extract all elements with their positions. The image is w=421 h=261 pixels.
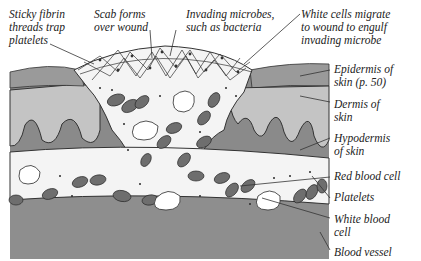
label-red-blood-cell: Red blood cell bbox=[334, 170, 400, 183]
label-white-cells-migrate: White cells migrate to wound to engulf i… bbox=[301, 8, 390, 47]
label-white-blood-cell: White blood cell bbox=[334, 213, 390, 239]
label-epidermis: Epidermis of skin (p. 50) bbox=[334, 63, 393, 89]
label-scab: Scab forms over wound bbox=[94, 8, 148, 34]
label-fibrin: Sticky fibrin threads trap platelets bbox=[9, 8, 65, 47]
label-hypodermis: Hypodermis of skin bbox=[334, 132, 390, 158]
label-blood-vessel: Blood vessel bbox=[334, 246, 392, 259]
label-dermis: Dermis of skin bbox=[334, 98, 380, 124]
label-platelets: Platelets bbox=[334, 191, 374, 204]
label-microbes: Invading microbes, such as bacteria bbox=[186, 8, 274, 34]
